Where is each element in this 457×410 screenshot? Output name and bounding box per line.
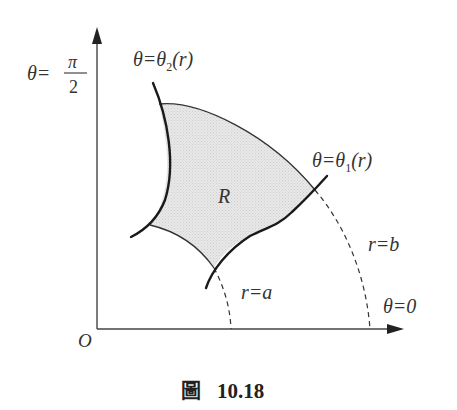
label-theta-pi-over-2-numerator: π <box>68 52 78 72</box>
label-theta-pi-over-2-denominator: 2 <box>69 77 78 97</box>
label-theta-pi-over-2-lhs: θ= <box>27 62 50 84</box>
label-theta-1: θ=θ1(r) <box>312 149 373 175</box>
arc-r-b-dashed <box>315 190 370 329</box>
label-r-equals-b: r=b <box>368 233 399 255</box>
polar-region-diagram: θ= π 2 θ=θ2(r) θ=θ1(r) R r=b r=a θ=0 O 圖… <box>0 0 457 410</box>
figure-caption-number: 10.18 <box>217 379 264 403</box>
label-theta-2: θ=θ2(r) <box>133 48 194 74</box>
horizontal-axis-arrow-icon <box>387 324 404 334</box>
vertical-axis-arrow-icon <box>92 27 102 44</box>
label-theta-zero: θ=0 <box>383 295 416 317</box>
region-r-fill <box>150 104 315 268</box>
arc-r-a-dashed <box>214 268 231 329</box>
figure-caption-prefix: 圖 <box>181 380 201 402</box>
label-r-equals-a: r=a <box>241 281 272 303</box>
label-origin: O <box>78 330 92 351</box>
label-region-r: R <box>217 185 230 207</box>
